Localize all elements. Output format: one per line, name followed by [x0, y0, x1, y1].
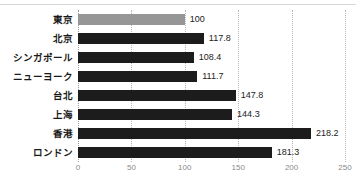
- value-label: 147.8: [241, 88, 264, 103]
- category-label: 北京: [53, 29, 73, 48]
- bar: [78, 128, 311, 139]
- bar-row: 東京100: [78, 10, 345, 29]
- category-label: 台北: [53, 86, 73, 105]
- top-divider: [0, 4, 356, 5]
- bar-row: ロンドン181.3: [78, 143, 345, 162]
- value-label: 108.4: [199, 50, 222, 65]
- bar: [78, 90, 236, 101]
- gridline-250: [345, 10, 346, 162]
- x-tick-label: 200: [285, 163, 298, 172]
- category-label: ニューヨーク: [13, 67, 73, 86]
- bar: [78, 147, 272, 158]
- x-axis: 050100150200250: [78, 162, 345, 176]
- value-label: 218.2: [316, 126, 339, 141]
- bar-row: 台北147.8: [78, 86, 345, 105]
- bar: [78, 33, 204, 44]
- value-label: 100: [190, 12, 205, 27]
- bar-row: 香港218.2: [78, 124, 345, 143]
- value-label: 144.3: [237, 107, 260, 122]
- bar-row: 上海144.3: [78, 105, 345, 124]
- value-label: 111.7: [202, 69, 223, 84]
- x-tick-label: 0: [76, 163, 80, 172]
- x-tick-label: 150: [232, 163, 245, 172]
- bar-row: シンガポール108.4: [78, 48, 345, 67]
- bar-chart: 東京100北京117.8シンガポール108.4ニューヨーク111.7台北147.…: [0, 0, 356, 188]
- bar-row: ニューヨーク111.7: [78, 67, 345, 86]
- x-tick-label: 50: [127, 163, 136, 172]
- category-label: ロンドン: [33, 143, 73, 162]
- bar-rows: 東京100北京117.8シンガポール108.4ニューヨーク111.7台北147.…: [78, 10, 345, 162]
- category-label: シンガポール: [13, 48, 73, 67]
- category-label: 上海: [53, 105, 73, 124]
- plot-area: 東京100北京117.8シンガポール108.4ニューヨーク111.7台北147.…: [78, 10, 345, 162]
- value-label: 117.8: [209, 31, 231, 46]
- bar: [78, 109, 232, 120]
- bar-row: 北京117.8: [78, 29, 345, 48]
- bar: [78, 14, 185, 25]
- x-tick-label: 250: [338, 163, 351, 172]
- x-tick-label: 100: [178, 163, 191, 172]
- bar: [78, 52, 194, 63]
- category-label: 香港: [53, 124, 73, 143]
- value-label: 181.3: [277, 145, 300, 160]
- bar: [78, 71, 197, 82]
- category-label: 東京: [53, 10, 73, 29]
